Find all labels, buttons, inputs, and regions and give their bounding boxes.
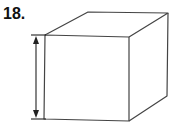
cube-top-face	[45, 12, 168, 37]
diagram-canvas: 18.	[0, 0, 187, 125]
cube-front-face	[44, 35, 129, 121]
cube-right-face	[129, 13, 168, 121]
arrow-down-icon	[33, 110, 39, 118]
arrow-up-icon	[33, 36, 39, 44]
cube-figure	[0, 0, 187, 125]
